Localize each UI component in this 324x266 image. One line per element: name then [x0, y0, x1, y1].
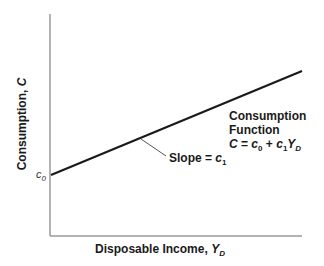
slope-label: Slope = c1 [169, 151, 227, 167]
function-equation: C = c0 + c1YD [229, 137, 306, 156]
function-title-line1: Consumption [229, 109, 306, 123]
x-axis-label: Disposable Income, YD [60, 242, 260, 258]
slope-leader-line [141, 139, 166, 156]
y-axis-label: Consumption, C [15, 59, 29, 189]
intercept-label: c0 [36, 168, 46, 183]
function-title-line2: Function [229, 123, 306, 137]
function-label: Consumption Function C = c0 + c1YD [229, 109, 306, 156]
